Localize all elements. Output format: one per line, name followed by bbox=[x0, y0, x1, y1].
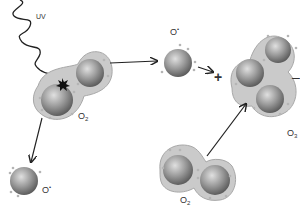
oxygen-atom bbox=[256, 85, 284, 113]
oxygen-atom bbox=[200, 165, 230, 195]
o2-molecule-top bbox=[33, 52, 112, 120]
o2-bottom-label: O2 bbox=[180, 195, 191, 206]
ozone-diagram: UV O2 O• O• + bbox=[0, 0, 300, 206]
plus-sign: + bbox=[214, 69, 222, 85]
o3-molecule bbox=[231, 35, 297, 117]
o-radical-bottom bbox=[9, 167, 42, 198]
oxygen-atom bbox=[236, 59, 264, 87]
oxygen-atom bbox=[76, 59, 104, 87]
o-radical-top bbox=[161, 44, 197, 77]
o-radical-bottom-label: O• bbox=[42, 184, 51, 195]
o2-top-label: O2 bbox=[78, 111, 89, 122]
minus-fragment: – bbox=[292, 69, 300, 85]
arrow-to-o3 bbox=[207, 104, 246, 156]
oxygen-atom bbox=[163, 155, 193, 185]
o2-molecule-bottom bbox=[160, 145, 236, 200]
arrow-to-plus bbox=[198, 67, 213, 72]
o-radical-top-label: O• bbox=[170, 26, 179, 37]
arrow-to-o-top bbox=[110, 61, 157, 63]
uv-label: UV bbox=[36, 13, 46, 20]
oxygen-atom bbox=[41, 84, 73, 116]
o3-label: O3 bbox=[287, 128, 298, 139]
oxygen-atom bbox=[265, 37, 291, 63]
arrow-to-o-bottom bbox=[31, 118, 42, 162]
